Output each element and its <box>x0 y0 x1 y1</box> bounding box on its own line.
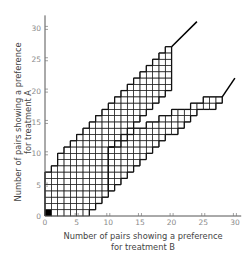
grid-cell <box>134 134 140 140</box>
grid-cell <box>115 116 121 122</box>
grid-cell <box>77 147 83 153</box>
grid-cell <box>51 203 57 209</box>
grid-cell <box>140 72 146 78</box>
grid-cell <box>127 122 133 128</box>
grid-cell <box>127 160 133 166</box>
grid-cell <box>127 109 133 115</box>
grid-cell <box>64 178 70 184</box>
boundary-extension-line <box>222 78 235 97</box>
y-axis-title: Number of pairs showing a preference for… <box>13 42 33 201</box>
grid-cell <box>165 47 171 53</box>
axes: 051015202530 051015202530 <box>31 15 241 227</box>
grid-cell <box>134 147 140 153</box>
grid-cell <box>70 141 76 147</box>
grid-cell <box>102 134 108 140</box>
grid-cell <box>153 66 159 72</box>
grid-cell <box>108 172 114 178</box>
grid-cell <box>203 97 209 103</box>
grid-cell <box>89 141 95 147</box>
grid-cell <box>108 141 114 147</box>
grid-cell <box>159 66 165 72</box>
grid-cell <box>96 191 102 197</box>
grid-cell <box>115 109 121 115</box>
grid-cell <box>121 97 127 103</box>
grid-cell <box>115 134 121 140</box>
x-tick-label: 0 <box>43 218 48 227</box>
grid-cell <box>96 116 102 122</box>
grid-cell <box>121 153 127 159</box>
grid-cell <box>159 78 165 84</box>
grid-cell <box>153 91 159 97</box>
grid-cell <box>153 122 159 128</box>
grid-cell <box>127 166 133 172</box>
grid-cell <box>153 97 159 103</box>
grid-cell <box>115 160 121 166</box>
grid-cell <box>83 185 89 191</box>
grid-cell <box>159 134 165 140</box>
grid-cell <box>165 128 171 134</box>
grid-cell <box>83 191 89 197</box>
grid-cell <box>96 166 102 172</box>
grid-cell <box>134 78 140 84</box>
grid-cell <box>70 178 76 184</box>
grid-cell <box>77 160 83 166</box>
grid-cell <box>96 197 102 203</box>
grid-cell <box>96 122 102 128</box>
grid-cell <box>83 197 89 203</box>
grid-cell <box>108 116 114 122</box>
grid-cell <box>115 172 121 178</box>
grid-cell <box>96 141 102 147</box>
grid-cell <box>89 134 95 140</box>
grid-cell <box>178 116 184 122</box>
y-tick-label: 30 <box>31 24 41 33</box>
grid-cell <box>140 147 146 153</box>
grid-cell <box>77 185 83 191</box>
grid-cell <box>64 166 70 172</box>
grid-cell <box>96 185 102 191</box>
grid-cell <box>45 197 51 203</box>
grid-cell <box>83 178 89 184</box>
grid-cell <box>77 141 83 147</box>
grid-cell <box>64 153 70 159</box>
grid-cell <box>134 153 140 159</box>
grid-cell <box>121 147 127 153</box>
grid-cell <box>89 203 95 209</box>
x-tick-label: 15 <box>135 218 145 227</box>
grid-cell <box>134 160 140 166</box>
grid-cell <box>108 166 114 172</box>
grid-cell <box>153 78 159 84</box>
grid-cell <box>102 147 108 153</box>
grid-cell <box>83 128 89 134</box>
grid-cell <box>153 72 159 78</box>
grid-cell <box>146 134 152 140</box>
grid-cell <box>153 128 159 134</box>
grid-cell <box>58 210 64 216</box>
grid-cell <box>108 103 114 109</box>
grid-cell <box>140 97 146 103</box>
grid-cell <box>121 141 127 147</box>
grid-cell <box>77 172 83 178</box>
grid-cell <box>127 116 133 122</box>
grid-cell <box>96 153 102 159</box>
grid-cell <box>64 203 70 209</box>
grid-cell <box>70 185 76 191</box>
grid-cell <box>64 210 70 216</box>
grid-cell <box>51 178 57 184</box>
grid-cell <box>102 178 108 184</box>
grid-cell <box>121 103 127 109</box>
grid-cell <box>165 72 171 78</box>
grid-cell <box>58 160 64 166</box>
grid-cell <box>102 191 108 197</box>
grid-cell <box>70 166 76 172</box>
x-ticks: 051015202530 <box>43 213 240 227</box>
grid-cell <box>191 103 197 109</box>
grid-cell <box>58 191 64 197</box>
grid-cell <box>51 197 57 203</box>
grid-cell <box>127 141 133 147</box>
grid-cell <box>70 160 76 166</box>
grid-cell <box>89 191 95 197</box>
grid-cell <box>51 185 57 191</box>
grid-cell <box>70 203 76 209</box>
grid-cell <box>165 53 171 59</box>
grid-cell <box>121 122 127 128</box>
